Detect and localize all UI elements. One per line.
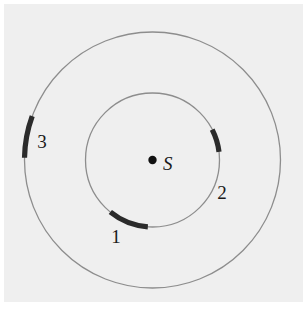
arc-label-2: 2 <box>217 182 227 203</box>
arc-label-1: 1 <box>111 226 121 247</box>
arc-label-3: 3 <box>37 131 47 152</box>
center-body-label: S <box>163 153 173 174</box>
plot-background <box>4 4 303 302</box>
figure-root: S 1 2 3 <box>0 0 307 315</box>
center-body-dot <box>148 156 156 164</box>
orbit-diagram: S 1 2 3 <box>0 0 307 315</box>
